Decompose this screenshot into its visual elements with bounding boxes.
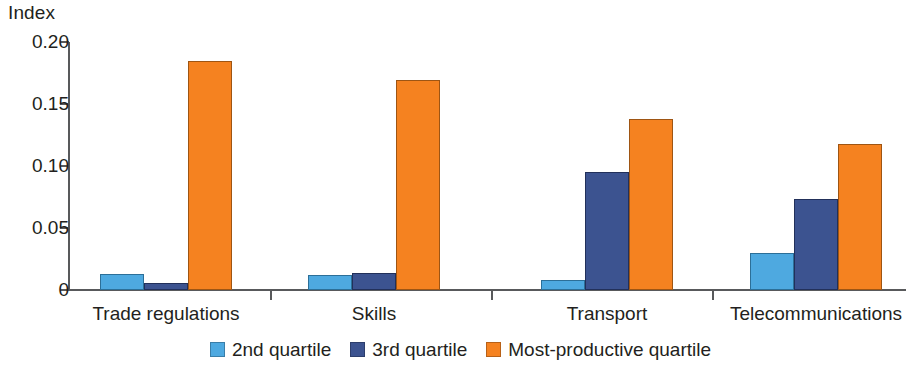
x-axis-category-label: Skills: [352, 303, 396, 325]
x-tick-mark: [491, 291, 493, 300]
y-tick-label: 0.10: [15, 156, 69, 175]
legend-swatch-icon: [210, 342, 225, 357]
plot-area: 00.050.100.150.20 Trade regulationsSkill…: [0, 0, 921, 300]
y-tick-label: 0.20: [15, 32, 69, 51]
legend-swatch-icon: [350, 342, 365, 357]
x-axis-category-label: Trade regulations: [92, 303, 239, 325]
legend-label: 3rd quartile: [372, 340, 467, 359]
chart-legend: 2nd quartile3rd quartileMost-productive …: [0, 340, 921, 359]
y-tick-label: 0.15: [15, 94, 69, 113]
legend-swatch-icon: [486, 342, 501, 357]
bar: [188, 61, 232, 290]
bar: [629, 119, 673, 290]
y-tick-label: 0.05: [15, 218, 69, 237]
bar: [541, 280, 585, 290]
bar: [144, 283, 188, 290]
legend-item: Most-productive quartile: [486, 340, 711, 359]
bar: [794, 199, 838, 290]
x-tick-mark: [270, 291, 272, 300]
bar: [396, 80, 440, 290]
y-tick-label: 0: [15, 280, 69, 299]
legend-label: 2nd quartile: [232, 340, 331, 359]
x-tick-mark: [712, 291, 714, 300]
bar: [352, 273, 396, 290]
legend-label: Most-productive quartile: [508, 340, 711, 359]
bar: [838, 144, 882, 290]
bar: [308, 275, 352, 290]
x-axis-category-label: Telecommunications: [730, 303, 902, 325]
bar: [585, 172, 629, 290]
bar: [750, 253, 794, 290]
bar-chart: Index 00.050.100.150.20 Trade regulation…: [0, 0, 921, 381]
bar: [100, 274, 144, 290]
x-axis-category-label: Transport: [567, 303, 648, 325]
legend-item: 2nd quartile: [210, 340, 331, 359]
legend-item: 3rd quartile: [350, 340, 467, 359]
